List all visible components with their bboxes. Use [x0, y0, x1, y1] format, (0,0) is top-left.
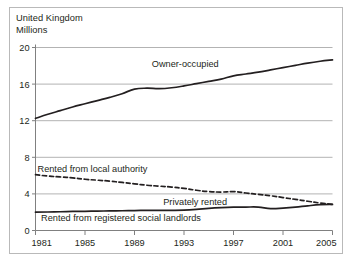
y-tick-label: 16 — [19, 80, 29, 90]
series-label: Owner-occupied — [152, 59, 219, 69]
x-tick-label: 1981 — [32, 238, 52, 248]
plot-area: 048121620 1981198519891993199720012005 O… — [0, 0, 356, 265]
x-tick-label: 1989 — [124, 238, 144, 248]
series-lines — [36, 60, 333, 212]
series-label: Privately rented — [163, 197, 227, 207]
line-chart-svg: 048121620 1981198519891993199720012005 O… — [0, 0, 356, 265]
x-tick-label: 2005 — [316, 238, 336, 248]
series-label: Rented from local authority — [38, 164, 148, 174]
y-axis-labels: 048121620 — [19, 43, 29, 236]
y-tick-label: 8 — [24, 153, 29, 163]
y-tick-label: 12 — [19, 116, 29, 126]
x-axis-ticks — [36, 231, 333, 236]
x-tick-label: 2001 — [273, 238, 293, 248]
chart-figure: United Kingdom Millions 048121620 198119… — [0, 0, 356, 265]
x-tick-label: 1997 — [223, 238, 243, 248]
x-tick-label: 1985 — [75, 238, 95, 248]
y-axis-ticks — [32, 48, 36, 231]
series-label: Rented from registered social landlords — [41, 213, 201, 223]
y-tick-label: 0 — [24, 226, 29, 236]
x-axis-labels: 1981198519891993199720012005 — [32, 238, 337, 248]
y-tick-label: 20 — [19, 43, 29, 53]
x-tick-label: 1993 — [174, 238, 194, 248]
y-tick-label: 4 — [24, 189, 29, 199]
